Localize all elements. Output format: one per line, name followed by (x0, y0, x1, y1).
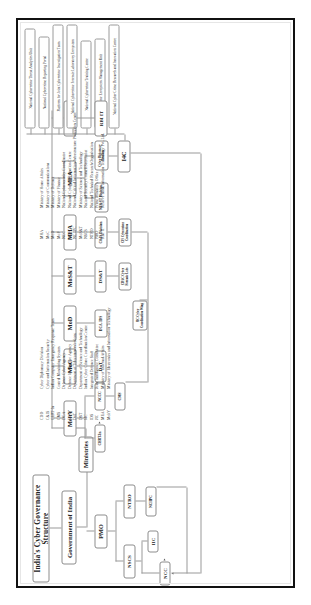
legend-row: MeitYMinistry of Electronics and Informa… (107, 308, 113, 420)
legend-table-1: CDDCyber Diplomacy Division C&ISCyber an… (40, 308, 112, 420)
edge-pmo-down (107, 530, 115, 531)
edge-ntro-nciipc (135, 500, 145, 501)
node-ntro: NTRO (123, 484, 135, 518)
node-cms: CMS (114, 382, 125, 410)
legend-row: RBI ITReserve Bank Information Technolog… (101, 112, 107, 239)
edge-meity-certin (84, 437, 94, 438)
edge-return-ntro (156, 486, 186, 487)
edge-pmo-nscs (115, 560, 123, 561)
legend-full: Reserve Bank Information Technology Pvt.… (101, 112, 107, 208)
legend-column-1: CDDCyber Diplomacy Division C&ISCyber an… (40, 290, 112, 420)
edge-most-dst (76, 275, 94, 276)
node-most: MoS&T (63, 258, 76, 294)
legend-abbr: RBI IT (101, 208, 107, 239)
edge-pmo-ntro (115, 500, 123, 501)
node-dst: DS&T (94, 260, 106, 292)
node-cdac-forensic-labs: CDAC Cyber Forensic Labs (118, 262, 131, 290)
legend-column-2: MHAMinistry of Home Affairs MoCMinistry … (40, 89, 107, 239)
i4c-vertical-label: National Cybercrime Threat Analytics Uni… (28, 48, 32, 109)
edge-i4c-v7 (114, 128, 115, 134)
node-nscs: NSCS (123, 544, 135, 578)
root-node-government-of-india: Government of India (61, 490, 76, 564)
edge-title-root (49, 527, 61, 528)
poster-frame: India's Cyber Governance Structure Gover… (16, 18, 295, 588)
node-jic-cyber-coordination-wing: JIC Cyber Coordination Wing (132, 300, 147, 330)
legend-full: Indian Computer Emergency Response Team (51, 308, 57, 389)
edge-cdd-i4c (108, 155, 117, 156)
legend-abbr: MeitY (107, 389, 113, 420)
edge-return-bus-1 (186, 487, 187, 573)
node-cybercrime-coordination: CIS Cybercrime Coordination (118, 218, 131, 246)
edge-global-return-riser (130, 152, 200, 153)
node-pmo: PMO (94, 514, 107, 548)
edge-return-bus-2 (147, 232, 148, 382)
node-ministries: Ministries (78, 436, 93, 472)
edge-dst-cdac (106, 275, 118, 276)
edge-i4c-v1 (30, 128, 31, 134)
edge-i4c-out (124, 134, 125, 140)
arrow-into-ncc-right (163, 558, 165, 560)
edge-nscs-bus (141, 541, 142, 573)
edge-root-pmo (86, 530, 94, 531)
edge-global-return-drop (171, 572, 200, 573)
edge-pmo-bus (115, 501, 116, 561)
i4c-vertical: National Cybercrime Threat Analytics Uni… (24, 28, 35, 128)
diagram-title: India's Cyber Governance Structure (32, 474, 49, 582)
node-ncc: NCC (159, 561, 170, 585)
node-cert-in: CERT-In (94, 424, 105, 452)
edge-root-spine (76, 526, 86, 527)
i4c-vertical: National Cyber Crime Research and Innova… (108, 24, 119, 128)
poster-page: India's Cyber Governance Structure Gover… (0, 0, 311, 605)
edge-nscs-down (135, 560, 141, 561)
i4c-vertical-label: National Cyber Crime Research and Innova… (112, 38, 116, 115)
edge-leg-most (51, 275, 63, 276)
node-i4c: I4C (117, 140, 130, 172)
node-iic: IIC (147, 530, 158, 552)
edge-nscs-iic (141, 540, 147, 541)
edge-cis-coord (107, 231, 118, 232)
node-nciipc: NCIIPC (145, 486, 156, 516)
arrow-certin-to-nccc (98, 421, 100, 423)
edge-return-cms (125, 381, 147, 382)
edge-global-return-bus (200, 153, 201, 573)
edge-return-jic (139, 299, 147, 300)
legend-table-2: MHAMinistry of Home Affairs MoCMinistry … (40, 112, 107, 239)
legend-full: National Critical Information Infrastruc… (73, 112, 79, 208)
legend-full: Ministry of Electronics and Information … (107, 308, 113, 389)
edge-mha-return (131, 231, 147, 232)
edge-nscs-ncc (141, 572, 159, 573)
